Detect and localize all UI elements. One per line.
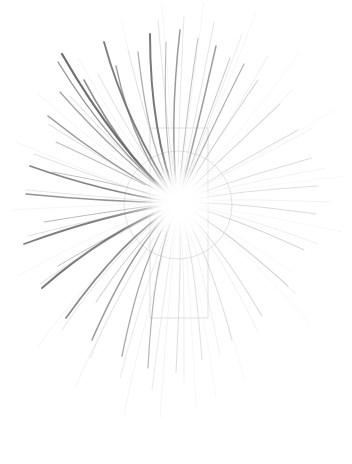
radial-burst-illustration (0, 0, 352, 464)
artwork-canvas: Radial Burst dandelion-like radial spray… (0, 0, 352, 464)
